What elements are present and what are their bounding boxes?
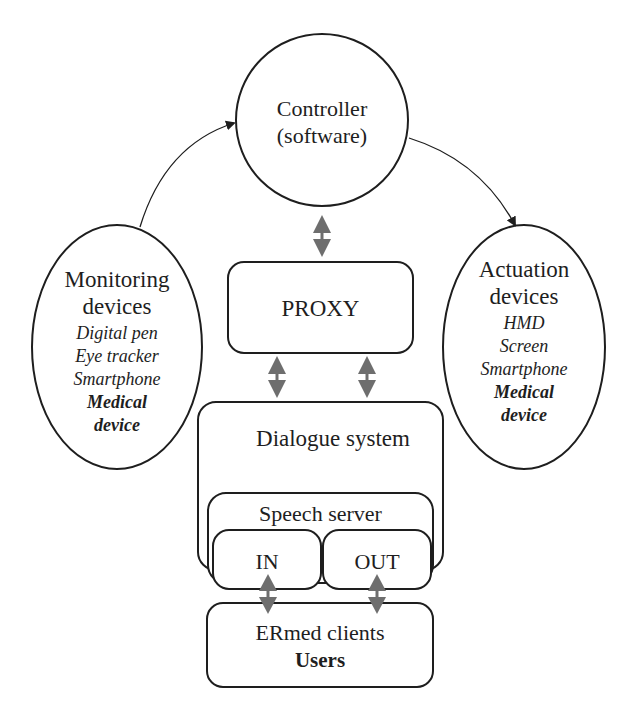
monitoring-title: Monitoring [65,268,170,291]
proxy-dialogue-right-bidirectional-arrow [358,356,376,398]
dialogue-system-label: Dialogue system [198,427,468,450]
monitoring-item-medical: Medical [87,393,147,411]
monitoring-devices-label: Monitoring devices Digital pen Eye track… [32,268,202,434]
actuation-item-smartphone: Smartphone [481,360,568,378]
monitoring-to-controller-arrow [140,123,234,227]
actuation-devices-label: Actuation devices HMD Screen Smartphone … [443,258,605,424]
controller-proxy-bidirectional-arrow [313,215,331,257]
actuation-item-device: device [501,406,547,424]
controller-title: Controller [277,98,367,120]
ermed-clients-title: ERmed clients [256,622,385,644]
actuation-title: Actuation [479,258,570,281]
monitoring-item-eye-tracker: Eye tracker [75,347,158,365]
actuation-subtitle: devices [490,285,559,308]
actuation-item-medical: Medical [494,383,554,401]
monitoring-subtitle: devices [83,295,152,318]
speech-server-label: Speech server [208,503,433,525]
actuation-item-screen: Screen [500,337,548,355]
proxy-label: PROXY [228,297,413,320]
monitoring-item-device: device [94,416,140,434]
controller-subtitle: (software) [277,125,367,147]
ermed-users-label: Users [295,650,345,671]
in-label: IN [213,551,321,573]
controller-to-actuation-arrow [409,138,515,225]
monitoring-item-smartphone: Smartphone [74,370,161,388]
actuation-item-hmd: HMD [504,314,545,332]
out-label: OUT [323,551,431,573]
ermed-clients-label: ERmed clients Users [207,622,433,671]
proxy-dialogue-left-bidirectional-arrow [268,356,286,398]
monitoring-item-digital-pen: Digital pen [76,324,158,342]
controller-label: Controller (software) [236,98,408,147]
